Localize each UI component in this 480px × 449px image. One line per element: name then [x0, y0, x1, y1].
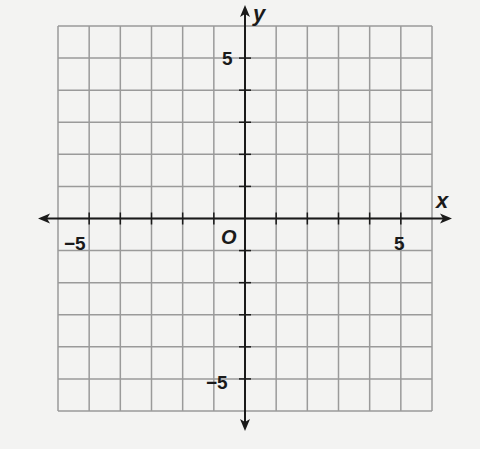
coordinate-plane: x y O −5 5 5 −5: [0, 0, 480, 449]
x-tick-label-neg5: −5: [64, 233, 86, 254]
y-tick-label-5: 5: [222, 48, 233, 69]
y-axis-label: y: [252, 1, 267, 26]
x-axis-label: x: [435, 188, 449, 213]
x-tick-label-5: 5: [394, 233, 405, 254]
coordinate-grid: x y O −5 5 5 −5: [0, 0, 480, 449]
y-tick-label-neg5: −5: [206, 372, 228, 393]
axes: [38, 5, 452, 431]
axis-labels: x y O −5 5 5 −5: [64, 1, 449, 393]
origin-label: O: [221, 226, 237, 248]
